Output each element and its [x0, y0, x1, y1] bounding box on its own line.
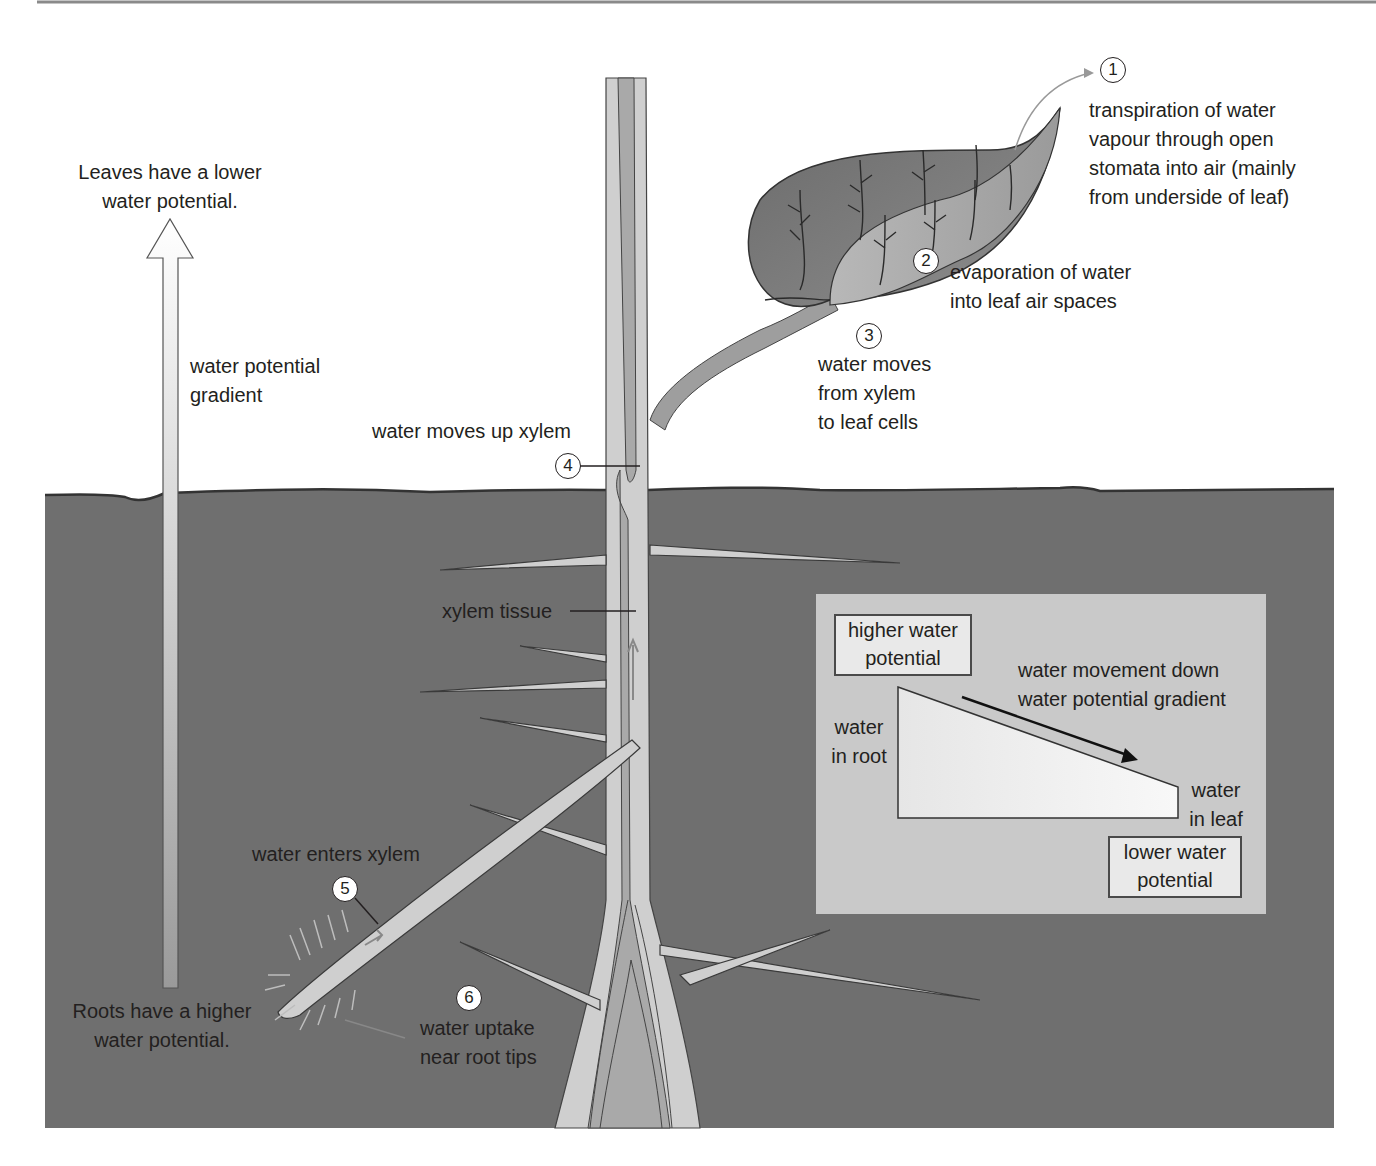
step-6-marker: 6 — [456, 985, 482, 1011]
roots-higher-potential-label: Roots have a higher water potential. — [62, 997, 262, 1055]
water-movement-label: water movement down water potential grad… — [1018, 656, 1226, 714]
water-in-root-label: water in root — [824, 713, 894, 771]
step-6-label: water uptake near root tips — [420, 1014, 537, 1072]
water-in-leaf-label: water in leaf — [1183, 776, 1249, 834]
step-5-label: water enters xylem — [252, 840, 420, 869]
xylem-tissue-label: xylem tissue — [442, 597, 552, 626]
step-4-label: water moves up xylem — [372, 417, 571, 446]
step-1-marker: 1 — [1100, 57, 1126, 83]
step-2-marker: 2 — [913, 248, 939, 274]
step-4-marker: 4 — [555, 453, 581, 479]
step-1-label: transpiration of water vapour through op… — [1089, 96, 1296, 212]
lower-water-potential-box: lower water potential — [1108, 836, 1242, 898]
petiole — [650, 295, 838, 430]
leaves-lower-potential-label: Leaves have a lower water potential. — [70, 158, 270, 216]
step-5-marker: 5 — [332, 876, 358, 902]
step-2-label: evaporation of water into leaf air space… — [950, 258, 1131, 316]
step-3-label: water moves from xylem to leaf cells — [818, 350, 931, 437]
step-3-marker: 3 — [856, 323, 882, 349]
higher-water-potential-box: higher water potential — [834, 614, 972, 676]
gradient-side-label: water potential gradient — [190, 352, 320, 410]
